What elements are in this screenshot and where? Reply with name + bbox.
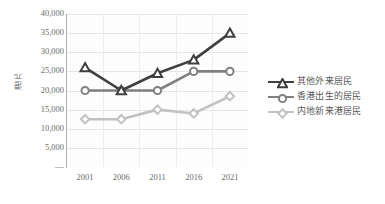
- y-axis-tick-label: 15,000: [22, 105, 64, 114]
- data-point-marker: [226, 92, 234, 100]
- legend-label: 香港出生的居民: [297, 91, 361, 102]
- data-point-marker: [81, 63, 90, 71]
- x-axis-tick-label: 2011: [149, 172, 166, 182]
- y-axis-tick-zero: —: [22, 162, 64, 171]
- series-line: [85, 33, 230, 90]
- y-axis-tick-label: 35,000: [22, 28, 64, 37]
- y-axis-tick-labels: 40,00035,00030,00025,00020,00015,00010,0…: [22, 0, 64, 204]
- legend-marker-triangle-icon: [268, 76, 294, 88]
- series-1: [81, 29, 235, 95]
- x-axis-tick-label: 2006: [113, 172, 130, 182]
- legend-label: 其他外来居民: [297, 76, 352, 87]
- plot-area: [67, 14, 248, 167]
- legend-item[interactable]: 其他外来居民: [268, 74, 384, 89]
- legend-item[interactable]: 内地新来港居民: [268, 104, 384, 119]
- y-axis-tick-label: 40,000: [22, 9, 64, 18]
- y-axis-tick-label: 20,000: [22, 86, 64, 95]
- x-axis-tick-label: 2021: [221, 172, 238, 182]
- data-point-marker: [225, 29, 234, 37]
- data-point-marker: [82, 87, 89, 94]
- data-point-marker: [153, 69, 162, 77]
- y-axis-tick-label: 5,000: [22, 143, 64, 152]
- data-point-marker: [190, 68, 197, 75]
- data-point-marker: [81, 115, 89, 123]
- legend-marker-diamond-icon: [268, 106, 294, 118]
- chart-legend: 其他外来居民香港出生的居民内地新来港居民: [268, 74, 384, 119]
- legend-label: 内地新来港居民: [297, 106, 361, 117]
- x-axis-tick-label: 2016: [185, 172, 202, 182]
- series-3: [81, 92, 234, 123]
- data-point-marker: [226, 68, 233, 75]
- y-axis-tick-label: 30,000: [22, 47, 64, 56]
- data-point-marker: [117, 115, 125, 123]
- legend-item[interactable]: 香港出生的居民: [268, 89, 384, 104]
- legend-marker-circle-icon: [268, 91, 294, 103]
- line-chart: 港元 40,00035,00030,00025,00020,00015,0001…: [0, 0, 385, 204]
- x-axis-tick-labels: 20012006201120162021: [67, 172, 248, 188]
- x-axis-tick-label: 2001: [77, 172, 94, 182]
- data-point-marker: [190, 109, 198, 117]
- y-axis-tick-label: 25,000: [22, 66, 64, 75]
- data-point-marker: [154, 87, 161, 94]
- data-point-marker: [153, 105, 161, 113]
- y-axis-tick-label: 10,000: [22, 124, 64, 133]
- series-container: [67, 14, 248, 167]
